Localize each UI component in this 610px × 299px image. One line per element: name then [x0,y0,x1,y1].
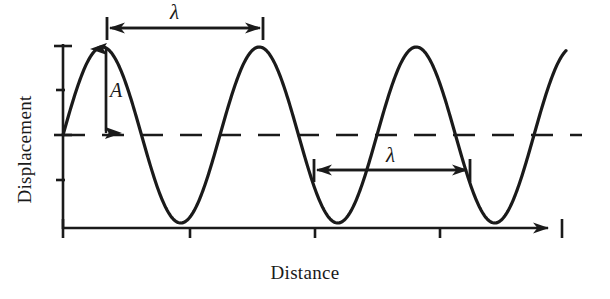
lambda-bottom-symbol: λ [386,145,395,166]
wave-diagram-figure: Displacement Distance λ λ A [0,0,610,299]
amplitude-symbol: A [110,80,122,100]
lambda-top-symbol: λ [170,2,179,23]
wave-diagram-canvas [0,0,610,299]
x-axis-label: Distance [0,262,610,284]
y-axis-label: Displacement [10,0,40,299]
